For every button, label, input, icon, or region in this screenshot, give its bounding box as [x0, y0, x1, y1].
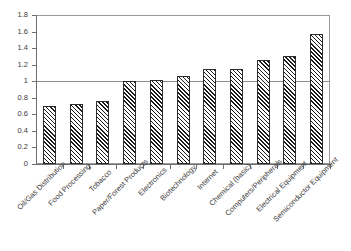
y-axis-tick [32, 81, 36, 82]
y-axis-tick [32, 98, 36, 99]
x-axis-line [36, 164, 331, 165]
y-axis-tick [32, 147, 36, 148]
x-axis-category-label: Internet [196, 168, 219, 191]
y-axis-tick-label: 1.2 [2, 61, 28, 69]
y-axis-tick [32, 15, 36, 16]
bar [283, 56, 296, 164]
bar-chart-figure: 00.20.40.60.811.21.41.61.8 Oil/Gas Distr… [0, 0, 351, 251]
bar [150, 80, 163, 164]
bar [96, 101, 109, 164]
bar [203, 69, 216, 164]
bar [310, 34, 323, 164]
y-axis-tick [32, 114, 36, 115]
y-axis-tick [32, 48, 36, 49]
bar [123, 81, 136, 164]
y-axis-tick-label: 1.8 [2, 11, 28, 19]
y-axis-tick-label: 0.6 [2, 110, 28, 118]
bar [43, 106, 56, 164]
x-axis-tick [223, 165, 224, 169]
y-axis-tick [32, 131, 36, 132]
bar [177, 76, 190, 164]
bar [70, 104, 83, 164]
y-axis-tick-label: 1.4 [2, 44, 28, 52]
x-axis-tick [116, 165, 117, 169]
y-axis-tick [32, 32, 36, 33]
y-axis-tick [32, 65, 36, 66]
y-axis-tick-label: 1 [2, 77, 28, 85]
x-axis-category-label: Oil/Gas Distribution [16, 160, 67, 211]
y-axis-tick [32, 164, 36, 165]
y-axis-tick-label: 0.8 [2, 94, 28, 102]
y-axis-line [36, 15, 37, 165]
y-axis-tick-label: 0.4 [2, 127, 28, 135]
y-axis-tick-label: 0.2 [2, 143, 28, 151]
y-axis-tick-label: 0 [2, 160, 28, 168]
y-axis-tick-label: 1.6 [2, 28, 28, 36]
x-axis-tick [170, 165, 171, 169]
bar [257, 60, 270, 164]
bar [230, 69, 243, 164]
